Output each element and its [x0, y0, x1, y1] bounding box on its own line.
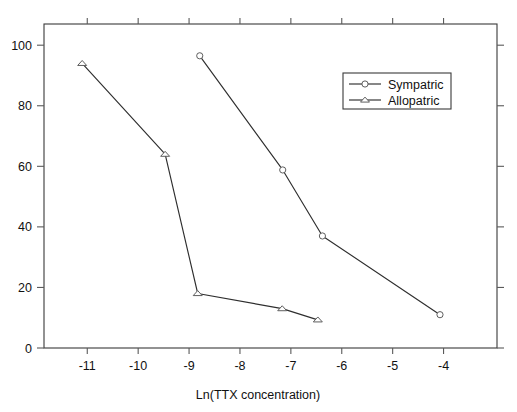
x-axis-title: Ln(TTX concentration)	[196, 388, 320, 402]
series-allopatric	[78, 60, 323, 321]
x-axis-ticks: -11-10-9-8-7-6-5-4	[79, 18, 449, 373]
chart-figure: -11-10-9-8-7-6-5-4 020406080100 Sympatri…	[0, 0, 517, 412]
data-point-marker	[193, 291, 202, 296]
y-tick-label: 60	[18, 160, 32, 174]
y-tick-label: 40	[18, 220, 32, 234]
data-point-marker	[197, 53, 203, 59]
line-chart: -11-10-9-8-7-6-5-4 020406080100 Sympatri…	[0, 0, 517, 412]
x-tick-label: -6	[336, 359, 347, 373]
data-point-marker	[78, 60, 87, 65]
chart-legend: SympatricAllopatric	[343, 73, 451, 109]
y-tick-label: 20	[18, 281, 32, 295]
data-point-marker	[437, 312, 443, 318]
data-point-marker	[161, 151, 170, 156]
y-tick-label: 80	[18, 99, 32, 113]
series-polyline	[82, 63, 318, 319]
legend-label: Sympatric	[388, 78, 444, 92]
y-tick-label: 100	[11, 39, 32, 53]
x-tick-label: -10	[129, 359, 147, 373]
data-point-marker	[280, 167, 286, 173]
x-tick-label: -4	[438, 359, 449, 373]
x-tick-label: -8	[234, 359, 245, 373]
x-tick-label: -5	[387, 359, 398, 373]
x-tick-label: -11	[79, 359, 96, 373]
data-point-marker	[319, 233, 325, 239]
x-tick-label: -9	[183, 359, 194, 373]
x-tick-label: -7	[285, 359, 296, 373]
y-tick-label: 0	[25, 342, 32, 356]
legend-label: Allopatric	[388, 94, 439, 108]
legend-marker	[362, 81, 368, 87]
